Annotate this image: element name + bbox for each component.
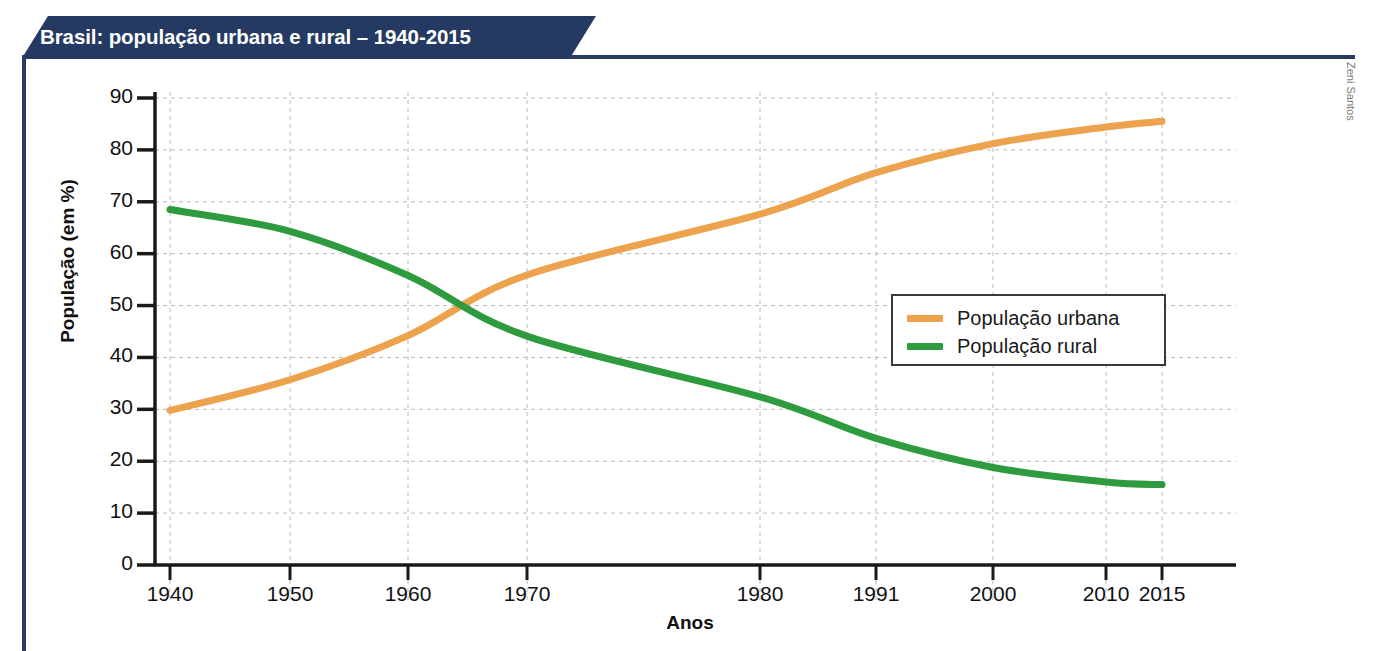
x-axis-title: Anos <box>620 612 760 634</box>
legend-swatch-urban <box>907 315 943 322</box>
y-tick-label: 30 <box>87 395 133 419</box>
legend-swatch-rural <box>907 343 943 350</box>
y-tick-label: 50 <box>87 292 133 316</box>
y-tick-label: 80 <box>87 136 133 160</box>
y-tick-label: 90 <box>87 84 133 108</box>
x-tick-label: 1970 <box>487 582 567 606</box>
legend-label-urban: População urbana <box>957 307 1119 330</box>
y-tick-label: 40 <box>87 343 133 367</box>
y-tick-label: 10 <box>87 499 133 523</box>
x-tick-label: 1940 <box>130 582 210 606</box>
legend-label-rural: População rural <box>957 335 1097 358</box>
chart-figure: Brasil: população urbana e rural – 1940-… <box>0 0 1386 651</box>
x-tick-label: 1950 <box>250 582 330 606</box>
x-tick-label: 1960 <box>368 582 448 606</box>
x-tick-label: 2000 <box>953 582 1033 606</box>
x-tick-label: 1991 <box>836 582 916 606</box>
plot-area <box>0 0 1386 651</box>
x-tick-label: 1980 <box>720 582 800 606</box>
legend-item: População rural <box>907 332 1154 360</box>
plot-canvas <box>0 0 1386 651</box>
y-tick-label: 60 <box>87 240 133 264</box>
y-axis-title: População (em %) <box>57 151 79 371</box>
y-tick-label: 20 <box>87 447 133 471</box>
x-tick-label: 2015 <box>1122 582 1202 606</box>
legend-item: População urbana <box>907 304 1154 332</box>
chart-legend: População urbana População rural <box>891 294 1166 366</box>
y-tick-label: 0 <box>87 551 133 575</box>
y-tick-label: 70 <box>87 188 133 212</box>
